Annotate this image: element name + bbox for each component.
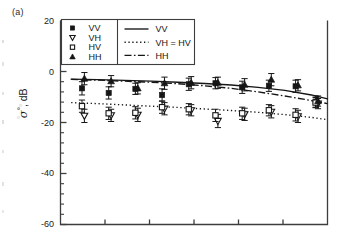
marker-open-square bbox=[70, 45, 74, 49]
figure-panel: (a) σ°, dB 20 0 -20 -40 -60 VVVHHVHHVVVH… bbox=[0, 0, 343, 243]
marker-filled-triangle-up bbox=[268, 76, 275, 82]
marker-open-square bbox=[133, 110, 138, 115]
marker-open-square bbox=[266, 108, 271, 113]
marker-filled-triangle-up bbox=[81, 75, 88, 81]
marker-filled-square bbox=[106, 90, 111, 95]
scan-artifact bbox=[2, 182, 4, 186]
marker-filled-square bbox=[79, 86, 84, 91]
legend-line-label: HH bbox=[156, 51, 169, 61]
x-tick-marks bbox=[105, 220, 283, 225]
marker-open-triangle-down bbox=[81, 113, 88, 119]
legend-marker-label-HV: HV bbox=[89, 42, 102, 52]
marker-open-square bbox=[79, 104, 84, 109]
legend-marker-label-VV: VV bbox=[89, 23, 101, 33]
scan-artifact bbox=[19, 104, 22, 107]
marker-open-square bbox=[293, 112, 298, 117]
legend-line-label: VV bbox=[156, 24, 168, 34]
marker-filled-square bbox=[160, 92, 165, 97]
legend-box: VVVHHVHHVVVH = HVHH bbox=[62, 20, 195, 65]
series-HV bbox=[79, 98, 319, 122]
scan-artifact bbox=[2, 92, 4, 95]
scan-artifact bbox=[2, 40, 4, 43]
legend-line-label: VH = HV bbox=[156, 38, 191, 48]
marker-open-square bbox=[240, 111, 245, 116]
legend-marker-label-VH: VH bbox=[89, 33, 102, 43]
scan-artifact bbox=[2, 210, 4, 213]
scan-artifact bbox=[17, 116, 20, 119]
marker-open-square bbox=[186, 107, 191, 112]
scan-artifact bbox=[2, 150, 4, 153]
marker-open-square bbox=[106, 111, 111, 116]
marker-filled-square bbox=[70, 26, 74, 30]
scan-artifact bbox=[2, 120, 4, 124]
scan-artifact bbox=[2, 62, 4, 66]
series-VV bbox=[79, 78, 319, 108]
legend-marker-label-HH: HH bbox=[89, 52, 102, 62]
plot-canvas: VVVHHVHHVVVH = HVHH bbox=[0, 0, 343, 243]
marker-open-square bbox=[213, 113, 218, 118]
series-HH bbox=[81, 73, 321, 107]
marker-open-square bbox=[159, 105, 164, 110]
series-VH bbox=[81, 99, 321, 128]
